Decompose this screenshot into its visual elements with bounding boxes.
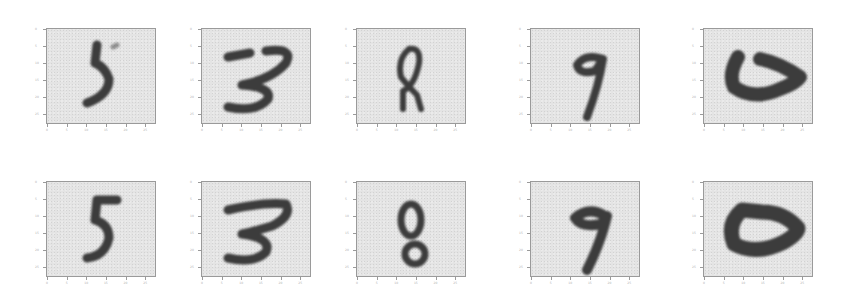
y-tick-label: 5 bbox=[35, 197, 37, 201]
y-tick-label: 15 bbox=[35, 78, 39, 82]
y-tick-label: 5 bbox=[345, 44, 347, 48]
y-tick-label: 0 bbox=[345, 180, 347, 184]
y-tick-label: 0 bbox=[190, 180, 192, 184]
x-tick-label: 20 bbox=[608, 128, 612, 132]
panel-bottom-5: 00551010151520202525 bbox=[703, 181, 813, 277]
x-tick bbox=[261, 124, 262, 127]
y-tick-label: 10 bbox=[345, 214, 349, 218]
digit-image bbox=[46, 28, 156, 124]
x-tick-label: 20 bbox=[279, 128, 283, 132]
y-tick-label: 20 bbox=[35, 95, 39, 99]
x-tick bbox=[436, 277, 437, 280]
x-tick bbox=[531, 277, 532, 280]
y-tick-label: 25 bbox=[35, 265, 39, 269]
x-tick-label: 0 bbox=[356, 128, 358, 132]
x-tick-label: 25 bbox=[298, 281, 302, 285]
y-tick bbox=[527, 216, 530, 217]
digit-image bbox=[201, 181, 311, 277]
y-tick-label: 20 bbox=[519, 95, 523, 99]
y-tick bbox=[353, 29, 356, 30]
y-tick-label: 10 bbox=[35, 61, 39, 65]
x-tick-label: 5 bbox=[221, 128, 223, 132]
x-tick-label: 15 bbox=[588, 281, 592, 285]
x-tick-label: 25 bbox=[143, 128, 147, 132]
x-tick-label: 0 bbox=[46, 128, 48, 132]
y-tick-label: 0 bbox=[692, 180, 694, 184]
y-tick bbox=[700, 267, 703, 268]
x-tick bbox=[590, 124, 591, 127]
x-tick bbox=[455, 277, 456, 280]
y-tick bbox=[198, 267, 201, 268]
x-tick bbox=[724, 124, 725, 127]
y-tick-label: 25 bbox=[35, 112, 39, 116]
y-tick bbox=[527, 199, 530, 200]
x-tick bbox=[86, 277, 87, 280]
digit-image bbox=[530, 181, 640, 277]
panel-top-3: 00551010151520202525 bbox=[356, 28, 466, 124]
y-tick-label: 25 bbox=[692, 265, 696, 269]
y-tick-label: 25 bbox=[345, 265, 349, 269]
panel-bottom-1: 00551010151520202525 bbox=[46, 181, 156, 277]
y-tick-label: 15 bbox=[190, 78, 194, 82]
y-tick-label: 15 bbox=[519, 231, 523, 235]
y-tick bbox=[198, 46, 201, 47]
y-tick bbox=[353, 182, 356, 183]
digit-image bbox=[356, 181, 466, 277]
y-tick bbox=[527, 114, 530, 115]
y-tick bbox=[43, 80, 46, 81]
y-tick-label: 10 bbox=[190, 61, 194, 65]
y-tick bbox=[43, 199, 46, 200]
y-tick bbox=[43, 267, 46, 268]
digit-image bbox=[356, 28, 466, 124]
x-tick-label: 5 bbox=[66, 281, 68, 285]
x-tick bbox=[67, 124, 68, 127]
x-tick-label: 20 bbox=[124, 281, 128, 285]
digit-image bbox=[530, 28, 640, 124]
y-tick-label: 5 bbox=[692, 197, 694, 201]
y-tick-label: 0 bbox=[692, 27, 694, 31]
y-tick bbox=[700, 199, 703, 200]
x-tick bbox=[261, 277, 262, 280]
y-tick bbox=[198, 29, 201, 30]
y-tick bbox=[700, 182, 703, 183]
x-tick bbox=[281, 277, 282, 280]
x-tick-label: 5 bbox=[550, 281, 552, 285]
x-tick-label: 0 bbox=[46, 281, 48, 285]
y-tick bbox=[353, 46, 356, 47]
x-tick bbox=[241, 277, 242, 280]
x-tick bbox=[300, 277, 301, 280]
x-tick-label: 10 bbox=[239, 281, 243, 285]
y-tick bbox=[353, 114, 356, 115]
x-tick bbox=[704, 124, 705, 127]
x-tick bbox=[106, 277, 107, 280]
y-tick bbox=[353, 97, 356, 98]
x-tick-label: 20 bbox=[781, 128, 785, 132]
y-tick-label: 10 bbox=[35, 214, 39, 218]
x-tick-label: 15 bbox=[414, 281, 418, 285]
y-tick-label: 20 bbox=[519, 248, 523, 252]
y-tick-label: 10 bbox=[519, 61, 523, 65]
y-tick-label: 10 bbox=[190, 214, 194, 218]
y-tick-label: 10 bbox=[519, 214, 523, 218]
y-tick bbox=[700, 233, 703, 234]
y-tick bbox=[353, 199, 356, 200]
x-tick-label: 0 bbox=[530, 128, 532, 132]
y-tick-label: 5 bbox=[692, 44, 694, 48]
panel-top-5: 00551010151520202525 bbox=[703, 28, 813, 124]
y-tick-label: 5 bbox=[345, 197, 347, 201]
x-tick-label: 15 bbox=[104, 281, 108, 285]
x-tick bbox=[396, 277, 397, 280]
y-tick bbox=[198, 80, 201, 81]
x-tick bbox=[47, 277, 48, 280]
x-tick-label: 20 bbox=[434, 281, 438, 285]
y-tick-label: 25 bbox=[519, 265, 523, 269]
y-tick-label: 25 bbox=[519, 112, 523, 116]
y-tick-label: 0 bbox=[345, 27, 347, 31]
y-tick-label: 0 bbox=[35, 27, 37, 31]
x-tick-label: 10 bbox=[741, 128, 745, 132]
x-tick-label: 15 bbox=[259, 128, 263, 132]
x-tick bbox=[377, 124, 378, 127]
x-tick-label: 25 bbox=[453, 128, 457, 132]
y-tick bbox=[353, 233, 356, 234]
panel-bottom-2: 00551010151520202525 bbox=[201, 181, 311, 277]
